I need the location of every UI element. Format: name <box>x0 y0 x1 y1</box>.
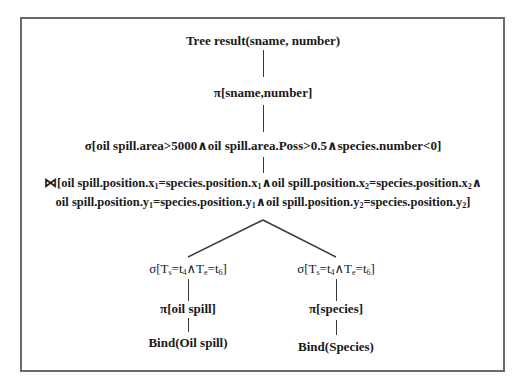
edge-right-selection-projection <box>336 279 338 301</box>
edge-left-selection-projection <box>188 279 190 301</box>
node-tree-result: Tree result(sname, number) <box>186 33 340 48</box>
node-right-time-selection: σ[Ts=t4∧Te=t6] <box>297 261 375 276</box>
node-bind-oil-spill: Bind(Oil spill) <box>148 335 227 350</box>
node-bind-species: Bind(Species) <box>298 339 374 354</box>
edge-selection-join <box>263 157 265 173</box>
node-join: ⋈[oil spill.position.x1=species.position… <box>44 174 482 212</box>
edge-left-projection-bind <box>188 318 190 332</box>
edge-root-projection <box>263 50 265 77</box>
join-line-2: oil spill.position.y1=species.position.y… <box>44 193 482 212</box>
node-selection-conditions: σ[oil spill.area>5000∧oil spill.area.Pos… <box>85 138 442 153</box>
edge-projection-selection <box>263 105 265 132</box>
node-left-time-selection: σ[Ts=t4∧Te=t6] <box>149 261 227 276</box>
node-left-projection: π[oil spill] <box>160 301 216 316</box>
edge-right-projection-bind <box>336 320 338 335</box>
node-right-projection: π[species] <box>309 301 363 316</box>
join-line-1: ⋈[oil spill.position.x1=species.position… <box>44 174 482 193</box>
node-projection-sname-number: π[sname,number] <box>214 85 312 100</box>
